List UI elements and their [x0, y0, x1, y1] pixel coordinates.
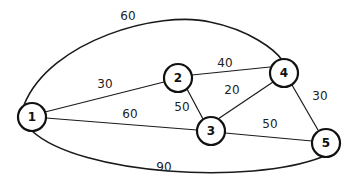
node-1: 1: [18, 103, 46, 131]
weight-label-3-4: 20: [224, 83, 239, 97]
weight-label-2-3: 50: [174, 100, 189, 114]
weight-label-3-5: 50: [262, 117, 277, 131]
edge-1-5: [32, 131, 322, 173]
svg-text:1: 1: [28, 110, 36, 124]
svg-text:3: 3: [207, 124, 215, 138]
node-2: 2: [164, 64, 192, 92]
edge-1-4: [24, 19, 282, 105]
node-5: 5: [312, 129, 340, 157]
svg-text:2: 2: [174, 71, 182, 85]
weight-label-2-4: 40: [217, 56, 232, 70]
weight-label-1-5: 90: [156, 160, 171, 174]
graph-diagram: 60 30 60 90 40 50 20 50 30 1 2 3 4 5: [0, 0, 357, 187]
svg-text:5: 5: [322, 136, 330, 150]
node-3: 3: [197, 117, 225, 145]
weight-label-4-5: 30: [312, 89, 327, 103]
edge-3-5: [225, 133, 312, 141]
weight-label-1-3: 60: [122, 107, 137, 121]
weight-label-1-4: 60: [120, 9, 135, 23]
svg-text:4: 4: [280, 66, 288, 80]
weight-label-1-2: 30: [97, 77, 112, 91]
node-4: 4: [270, 59, 298, 87]
